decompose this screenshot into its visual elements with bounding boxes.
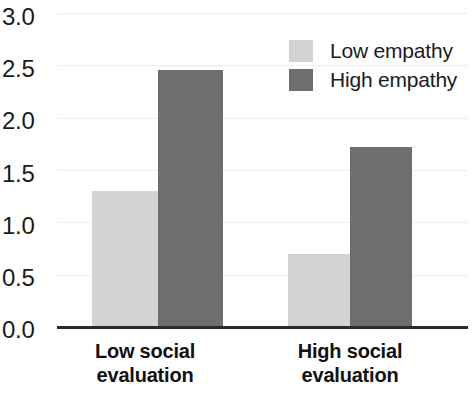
- y-tick-label-2.0: 2.0: [2, 109, 54, 133]
- chart-legend: Low empathy High empathy: [289, 36, 457, 94]
- x-category-label-low-social-evaluation: Low social evaluation: [57, 340, 233, 387]
- y-axis-labels: 3.0 2.5 2.0 1.5 1.0 0.5 0.0: [2, 0, 54, 399]
- y-tick-label-1.5: 1.5: [2, 162, 54, 186]
- x-category-line2: evaluation: [57, 364, 233, 388]
- y-tick-label-3.0: 3.0: [2, 5, 54, 29]
- bar-high-empathy-low-social-evaluation: [158, 70, 223, 327]
- y-tick-label-1.0: 1.0: [2, 214, 54, 238]
- gridline-2.0: [57, 118, 468, 119]
- bar-low-empathy-low-social-evaluation: [92, 191, 158, 327]
- x-category-line1: High social: [262, 340, 438, 364]
- bar-low-empathy-high-social-evaluation: [288, 254, 350, 327]
- legend-swatch-low-empathy: [289, 40, 313, 62]
- bar-chart-figure: 3.0 2.5 2.0 1.5 1.0 0.5 0.0 Low social e…: [0, 0, 472, 399]
- y-tick-label-2.5: 2.5: [2, 57, 54, 81]
- gridline-3.0: [57, 13, 468, 14]
- legend-label-high-empathy: High empathy: [330, 68, 457, 92]
- legend-item-high-empathy: High empathy: [289, 65, 457, 94]
- legend-swatch-high-empathy: [289, 69, 313, 91]
- y-tick-label-0.5: 0.5: [2, 266, 54, 290]
- legend-item-low-empathy: Low empathy: [289, 36, 457, 65]
- x-category-line2: evaluation: [262, 364, 438, 388]
- x-category-line1: Low social: [57, 340, 233, 364]
- legend-label-low-empathy: Low empathy: [330, 39, 453, 63]
- x-category-label-high-social-evaluation: High social evaluation: [262, 340, 438, 387]
- x-axis-baseline: [57, 326, 468, 329]
- bar-high-empathy-high-social-evaluation: [350, 147, 412, 327]
- y-tick-label-0.0: 0.0: [2, 318, 54, 342]
